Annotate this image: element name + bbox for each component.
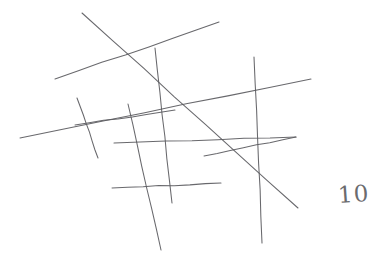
drawing-page: 10 (0, 0, 381, 263)
line-mid-left-rising-line (20, 79, 311, 138)
handwritten-ten-label: 10 (337, 182, 370, 207)
line-figure-canvas (0, 0, 381, 263)
line-inner-upper-short-rise (75, 110, 175, 125)
line-short-steep-left-line (77, 98, 98, 158)
line-steep-line-right (254, 57, 262, 243)
line-long-diagonal-down-right (82, 13, 298, 208)
line-upper-left-rising-line (55, 22, 219, 79)
line-bottom-horizontal-line (112, 183, 221, 188)
line-inner-lower-rising-line (114, 137, 296, 143)
line-steep-line-center-right (155, 48, 172, 203)
line-segment-group (20, 13, 311, 250)
line-steep-line-center-left (128, 104, 161, 250)
